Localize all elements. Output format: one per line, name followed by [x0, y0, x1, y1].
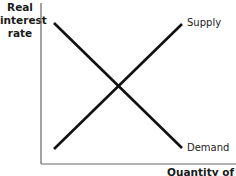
- demand-label: Demand: [187, 142, 229, 153]
- x-axis-label: Quantity of: [167, 166, 234, 176]
- supply-label: Supply: [187, 17, 221, 28]
